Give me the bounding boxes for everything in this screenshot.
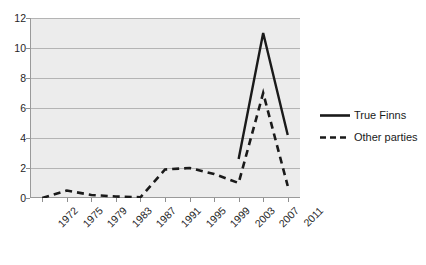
x-tick-mark: [165, 198, 166, 202]
y-tick-label: 12: [4, 13, 26, 24]
x-tick-mark: [91, 198, 92, 202]
x-tick-label: 2011: [301, 205, 325, 229]
x-tick-label: 1991: [179, 205, 203, 229]
x-tick-label: 1987: [154, 205, 178, 229]
x-tick-mark: [263, 198, 264, 202]
y-tick-label: 2: [4, 163, 26, 174]
y-tick-label: 0: [4, 193, 26, 204]
x-tick-mark: [214, 198, 215, 202]
legend-label-true-finns: True Finns: [354, 110, 406, 121]
x-tick-label: 1983: [130, 205, 154, 229]
legend-swatch-dashed: [320, 132, 350, 143]
y-tick-label: 8: [4, 73, 26, 84]
legend-item-other-parties: Other parties: [320, 126, 418, 148]
series-container: [30, 18, 300, 198]
y-tick-label: 6: [4, 103, 26, 114]
x-tick-mark: [67, 198, 68, 202]
x-tick-label: 2007: [277, 205, 301, 229]
y-tick-mark: [26, 198, 30, 199]
x-tick-mark: [42, 198, 43, 202]
x-tick-mark: [239, 198, 240, 202]
legend-label-other-parties: Other parties: [354, 132, 418, 143]
x-tick-label: 1999: [228, 205, 252, 229]
legend-item-true-finns: True Finns: [320, 104, 418, 126]
chart-figure: 024681012 197219751979198319871991199519…: [0, 0, 426, 265]
y-axis: 024681012: [0, 0, 26, 220]
chart-legend: True Finns Other parties: [320, 104, 418, 148]
x-tick-label: 1995: [203, 205, 227, 229]
y-tick-label: 10: [4, 43, 26, 54]
x-tick-label: 1979: [105, 205, 129, 229]
x-tick-mark: [140, 198, 141, 202]
x-tick-label: 1972: [56, 205, 80, 229]
x-tick-mark: [190, 198, 191, 202]
y-tick-label: 4: [4, 133, 26, 144]
series-line-other-parties: [42, 93, 287, 198]
legend-swatch-solid: [320, 110, 350, 121]
x-tick-label: 1975: [81, 205, 105, 229]
x-tick-mark: [288, 198, 289, 202]
x-tick-label: 2003: [252, 205, 276, 229]
x-tick-mark: [116, 198, 117, 202]
